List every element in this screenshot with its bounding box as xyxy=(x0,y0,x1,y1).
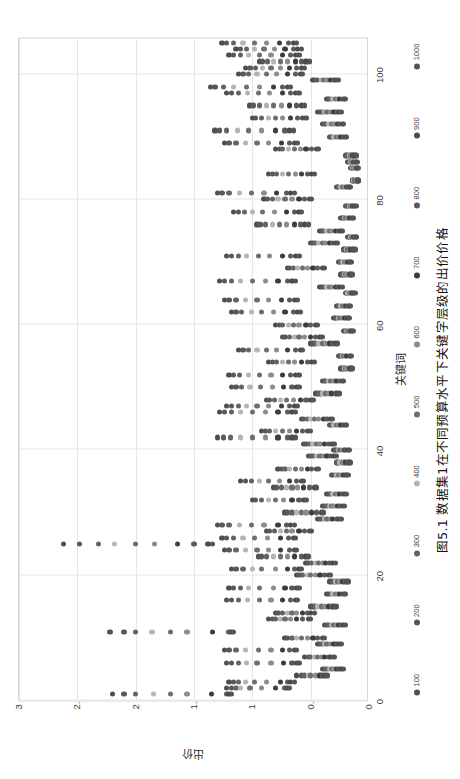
scatter-point xyxy=(236,597,241,602)
scatter-point xyxy=(296,372,301,377)
scatter-point xyxy=(96,541,101,546)
gridline-vertical xyxy=(19,73,367,74)
legend-marker-icon xyxy=(414,132,420,138)
scatter-point xyxy=(243,547,248,552)
scatter-point xyxy=(257,84,262,89)
scatter-point xyxy=(233,384,238,389)
scatter-point xyxy=(264,71,269,76)
scatter-point xyxy=(343,591,348,596)
scatter-point xyxy=(235,127,240,132)
scatter-point xyxy=(229,403,234,408)
scatter-point xyxy=(231,52,236,57)
scatter-point xyxy=(282,585,287,590)
scatter-point xyxy=(233,647,238,652)
gridline-horizontal xyxy=(19,38,20,700)
scatter-point xyxy=(253,115,258,120)
scatter-point xyxy=(228,434,233,439)
scatter-point xyxy=(184,629,189,634)
legend-item[interactable]: 300 xyxy=(412,534,421,556)
legend-item[interactable]: 400 xyxy=(412,465,421,487)
scatter-point xyxy=(244,403,249,408)
scatter-point xyxy=(352,290,357,295)
scatter-point xyxy=(266,478,271,483)
scatter-point xyxy=(352,246,357,251)
y-axis-tick-label: 2 xyxy=(129,704,140,709)
scatter-point xyxy=(268,52,273,57)
scatter-point xyxy=(349,259,354,264)
scatter-point xyxy=(291,322,296,327)
scatter-point xyxy=(322,265,327,270)
scatter-point xyxy=(273,685,278,690)
scatter-point xyxy=(268,65,273,70)
legend-item[interactable]: 100 xyxy=(412,673,421,695)
scatter-point xyxy=(224,127,229,132)
scatter-point xyxy=(221,84,226,89)
scatter-point xyxy=(226,547,231,552)
legend-item[interactable]: 700 xyxy=(412,256,421,278)
x-axis-tick-label: 20 xyxy=(374,570,385,581)
scatter-point xyxy=(272,397,277,402)
scatter-point xyxy=(231,585,236,590)
scatter-point xyxy=(293,58,298,63)
scatter-point xyxy=(307,58,312,63)
scatter-point xyxy=(221,434,226,439)
gridline-horizontal xyxy=(252,38,253,700)
scatter-point xyxy=(296,322,301,327)
scatter-point xyxy=(292,190,297,195)
scatter-point xyxy=(267,253,272,258)
x-axis-tick-label: 60 xyxy=(374,320,385,331)
scatter-point xyxy=(330,416,335,421)
x-axis-tick-label: 0 xyxy=(374,698,385,703)
scatter-point xyxy=(292,679,297,684)
scatter-point xyxy=(293,171,298,176)
scatter-point xyxy=(267,428,272,433)
legend-item[interactable]: 800 xyxy=(412,186,421,208)
scatter-point xyxy=(280,647,285,652)
legend-marker-icon xyxy=(414,689,420,695)
scatter-point xyxy=(294,40,299,45)
scatter-point xyxy=(271,585,276,590)
scatter-point xyxy=(345,578,350,583)
legend-label: 900 xyxy=(412,117,421,130)
scatter-point xyxy=(293,535,298,540)
scatter-point xyxy=(261,46,266,51)
legend-item[interactable]: 200 xyxy=(412,604,421,626)
scatter-point xyxy=(226,140,231,145)
scatter-point xyxy=(243,647,248,652)
scatter-point xyxy=(263,278,268,283)
scatter-point xyxy=(209,691,214,696)
scatter-point xyxy=(314,484,319,489)
scatter-point xyxy=(236,253,241,258)
scatter-point xyxy=(280,597,285,602)
y-axis-tick-label: 3 xyxy=(13,704,24,709)
legend-item[interactable]: 600 xyxy=(412,326,421,348)
legend-item[interactable]: 1000 xyxy=(412,43,421,69)
scatter-point xyxy=(356,165,361,170)
scatter-point xyxy=(284,221,289,226)
scatter-point xyxy=(259,115,264,120)
scatter-point xyxy=(280,146,285,151)
scatter-point xyxy=(310,397,315,402)
legend-marker-icon xyxy=(414,411,420,417)
scatter-point xyxy=(278,535,283,540)
legend-item[interactable]: 500 xyxy=(412,395,421,417)
scatter-point xyxy=(243,140,248,145)
scatter-point xyxy=(294,428,299,433)
scatter-point xyxy=(294,547,299,552)
scatter-point xyxy=(285,566,290,571)
scatter-point xyxy=(247,685,252,690)
scatter-point xyxy=(243,679,248,684)
scatter-point xyxy=(231,629,236,634)
scatter-point xyxy=(328,572,333,577)
scatter-point xyxy=(264,553,269,558)
scatter-point xyxy=(298,397,303,402)
scatter-point xyxy=(240,535,245,540)
y-axis-label: 出价 xyxy=(18,747,368,761)
scatter-point xyxy=(233,566,238,571)
legend-label: 400 xyxy=(412,465,421,478)
scatter-point xyxy=(303,510,308,515)
scatter-point xyxy=(300,347,305,352)
legend-item[interactable]: 900 xyxy=(412,117,421,139)
scatter-point xyxy=(244,660,249,665)
scatter-point xyxy=(238,434,243,439)
